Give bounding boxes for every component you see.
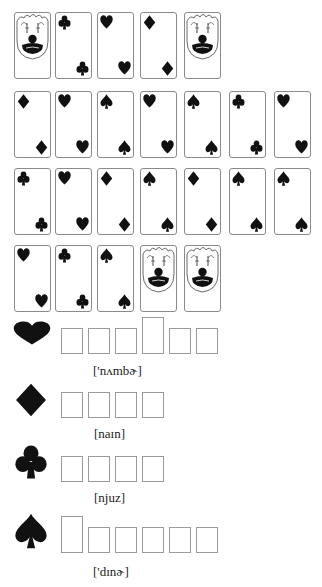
letter-card-u-heart[interactable] <box>97 12 134 79</box>
heart-icon <box>118 61 131 76</box>
joker-clown-face <box>15 13 50 61</box>
answer-letter-box[interactable] <box>142 392 164 418</box>
answer-letter-box[interactable] <box>88 392 110 418</box>
joker-clown-face <box>185 13 220 61</box>
club-icon <box>58 15 71 30</box>
joker-card[interactable] <box>140 245 177 312</box>
phonetic-transcription: [naɪn] <box>94 426 125 442</box>
answer-letter-box[interactable] <box>142 317 164 354</box>
answer-letter-box[interactable] <box>142 456 164 482</box>
letter-card-e-diamond[interactable] <box>97 168 134 235</box>
diamond-icon <box>161 61 174 76</box>
answer-letter-box[interactable] <box>196 527 218 553</box>
heart-icon <box>100 15 113 30</box>
letter-card-n-diamond[interactable] <box>184 168 221 235</box>
heart-icon <box>161 140 174 155</box>
answer-letter-box[interactable] <box>196 328 218 354</box>
club-icon <box>58 248 71 263</box>
club-icon <box>35 217 48 232</box>
club-icon <box>250 140 263 155</box>
letter-card-i-spade[interactable] <box>140 168 177 235</box>
spade-icon <box>143 171 156 186</box>
heart-icon <box>76 217 89 232</box>
joker-clown-face <box>141 246 176 294</box>
letter-card-m-heart[interactable] <box>274 91 311 158</box>
joker-card[interactable] <box>184 12 221 79</box>
club-icon <box>14 444 48 480</box>
answer-letter-box[interactable] <box>115 527 137 553</box>
answer-letter-box[interactable] <box>61 516 83 553</box>
spade-icon <box>277 171 290 186</box>
heart-icon <box>17 248 30 263</box>
letter-card-n-heart[interactable] <box>140 91 177 158</box>
heart-icon <box>76 140 89 155</box>
spade-icon <box>187 94 200 109</box>
letter-card-r-heart[interactable] <box>55 91 92 158</box>
diamond-icon <box>35 140 48 155</box>
spade-icon <box>295 217 308 232</box>
answer-letter-box[interactable] <box>169 328 191 354</box>
spade-icon <box>14 513 48 549</box>
answer-letter-box[interactable] <box>88 527 110 553</box>
letter-card-n-diamond[interactable] <box>14 91 51 158</box>
spade-icon <box>232 171 245 186</box>
answer-letter-box[interactable] <box>88 328 110 354</box>
answer-letter-box[interactable] <box>61 456 83 482</box>
answer-letter-box[interactable] <box>61 328 83 354</box>
letter-card-r-spade[interactable] <box>229 168 266 235</box>
spade-icon <box>100 248 113 263</box>
heart-icon <box>295 140 308 155</box>
club-icon <box>17 171 30 186</box>
diamond-icon <box>17 94 30 109</box>
club-icon <box>76 294 89 309</box>
answer-letter-box[interactable] <box>169 527 191 553</box>
diamond-icon <box>100 171 113 186</box>
heart-icon <box>35 294 48 309</box>
joker-clown-face <box>185 246 220 294</box>
joker-card[interactable] <box>184 245 221 312</box>
spade-icon <box>161 217 174 232</box>
joker-card[interactable] <box>14 12 51 79</box>
letter-card-n-club[interactable] <box>55 245 92 312</box>
answer-letter-box[interactable] <box>88 456 110 482</box>
heart-icon <box>58 171 71 186</box>
spade-icon <box>205 140 218 155</box>
heart-icon <box>13 321 51 347</box>
phonetic-transcription: ['dɪnɚ] <box>93 564 129 580</box>
club-icon <box>76 61 89 76</box>
letter-card-i-diamond[interactable] <box>140 12 177 79</box>
letter-card-n-spade[interactable] <box>274 168 311 235</box>
spade-icon <box>100 94 113 109</box>
letter-card-s-club[interactable] <box>14 168 51 235</box>
phonetic-transcription: [njuz] <box>94 490 125 506</box>
answer-letter-box[interactable] <box>61 392 83 418</box>
letter-card-b-heart[interactable] <box>14 245 51 312</box>
answer-letter-box[interactable] <box>142 527 164 553</box>
letter-card-d-spade[interactable] <box>97 91 134 158</box>
heart-icon <box>58 94 71 109</box>
letter-card-e-club[interactable] <box>229 91 266 158</box>
spade-icon <box>118 140 131 155</box>
answer-letter-box[interactable] <box>115 328 137 354</box>
diamond-icon <box>143 15 156 30</box>
diamond-icon <box>205 217 218 232</box>
answer-letter-box[interactable] <box>115 456 137 482</box>
answer-letter-box[interactable] <box>115 392 137 418</box>
diamond-icon <box>187 171 200 186</box>
spade-icon <box>250 217 263 232</box>
letter-card-e-spade[interactable] <box>184 91 221 158</box>
letter-card-w-club[interactable] <box>55 12 92 79</box>
diamond-icon <box>118 217 131 232</box>
heart-icon <box>277 94 290 109</box>
heart-icon <box>143 94 156 109</box>
spade-icon <box>118 294 131 309</box>
phonetic-transcription: ['nʌmbɚ] <box>93 363 142 379</box>
diamond-icon <box>14 383 48 417</box>
letter-card-n-spade[interactable] <box>97 245 134 312</box>
club-icon <box>232 94 245 109</box>
letter-card-e-heart[interactable] <box>55 168 92 235</box>
